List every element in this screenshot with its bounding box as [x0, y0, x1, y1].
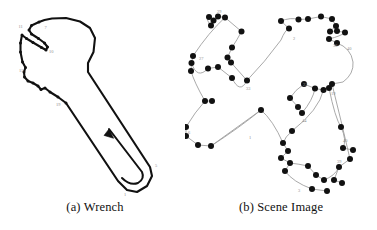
caption-scene: (b) Scene Image: [185, 200, 377, 215]
scene-interest-point: [339, 180, 345, 186]
wrench-vertex: [37, 37, 40, 40]
scene-interest-point: [215, 14, 221, 20]
scene-interest-point: [296, 17, 302, 23]
wrench-vertex: [45, 49, 48, 52]
scene-interest-point: [305, 163, 311, 169]
scene-point-label: 1: [249, 135, 251, 140]
scene-interest-point: [336, 164, 342, 170]
wrench-vertex: [37, 85, 40, 88]
scene-interest-point: [287, 95, 293, 101]
scene-interest-point: [305, 16, 311, 22]
wrench-point-label: 11: [19, 24, 23, 29]
wrench-vertex: [38, 21, 41, 24]
wrench-point-label: 1: [124, 192, 126, 197]
wrench-vertex: [65, 102, 68, 105]
wrench-vertex: [32, 41, 35, 44]
scene-panel: 292733612364022194440393: [185, 0, 377, 200]
wrench-vertex: [21, 61, 24, 64]
wrench-vertex: [24, 66, 27, 69]
scene-interest-point: [208, 143, 214, 149]
scene-interest-point: [205, 66, 211, 72]
scene-interest-point: [342, 30, 348, 36]
scene-interest-point: [190, 53, 196, 59]
wrench-vertex: [57, 96, 60, 99]
scene-interest-point: [312, 86, 318, 92]
scene-interest-point: [318, 14, 324, 20]
scene-interest-point: [189, 60, 195, 66]
scene-interest-point: [286, 26, 292, 32]
scene-interest-point: [313, 172, 319, 178]
caption-wrench: (a) Wrench: [0, 200, 190, 215]
scene-interest-point: [215, 64, 221, 70]
wrench-vertex: [28, 29, 31, 32]
scene-interest-point: [324, 188, 330, 194]
wrench-vertex: [49, 91, 52, 94]
scene-interest-point: [334, 28, 340, 34]
scene-interest-point: [289, 128, 295, 134]
wrench-vertex: [23, 76, 26, 79]
scene-interest-point: [239, 29, 245, 35]
scene-interest-point: [321, 177, 327, 183]
scene-interest-point: [188, 68, 194, 74]
scene-interest-point: [329, 81, 335, 87]
scene-interest-point: [329, 16, 335, 22]
wrench-vertex: [30, 24, 33, 27]
figure-root: 11710151951: [0, 0, 377, 230]
wrench-vertex: [40, 46, 43, 49]
scene-interest-point: [340, 145, 346, 151]
caption-row: (a) Wrench (b) Scene Image: [0, 200, 377, 230]
scene-interest-point: [278, 18, 284, 24]
wrench-vertex: [43, 42, 46, 45]
scene-interest-point: [244, 78, 250, 84]
wrench-vertex: [19, 51, 22, 54]
scene-interest-point: [338, 124, 344, 130]
scene-interest-point: [347, 156, 353, 162]
scene-interest-point: [326, 36, 332, 42]
scene-interest-point: [202, 98, 208, 104]
scene-interest-point: [208, 23, 214, 29]
scene-interest-point: [209, 98, 215, 104]
wrench-contour-figure: 11710151951: [0, 0, 190, 200]
scene-point-label: 22: [303, 82, 307, 87]
wrench-panel: 11710151951: [0, 0, 190, 200]
scene-interest-point: [287, 160, 293, 166]
scene-interest-point: [225, 55, 231, 61]
scene-interest-point: [333, 23, 339, 29]
scene-interest-point: [309, 186, 315, 192]
scene-interest-point: [327, 29, 333, 35]
scene-point-label: 2: [293, 36, 295, 41]
scene-interest-point: [299, 110, 305, 116]
scene-interest-point: [282, 168, 288, 174]
wrench-vertex: [25, 37, 28, 40]
scene-interest-point: [280, 140, 286, 146]
wrench-vertex: [44, 87, 47, 90]
scene-image-figure: 292733612364022194440393: [185, 0, 377, 200]
scene-interest-point: [278, 155, 284, 161]
scene-interest-point: [229, 75, 235, 81]
wrench-vertex: [27, 80, 30, 83]
scene-interest-point: [195, 142, 201, 148]
scene-interest-point: [321, 87, 327, 93]
wrench-vertex: [21, 34, 24, 37]
scene-interest-point: [258, 107, 264, 113]
scene-interest-point: [222, 15, 228, 21]
wrench-vertex: [19, 42, 22, 45]
wrench-vertex: [32, 82, 35, 85]
scene-interest-point: [229, 45, 235, 51]
scene-interest-point: [285, 148, 291, 154]
wrench-vertex: [30, 33, 33, 36]
scene-interest-point: [295, 104, 301, 110]
scene-interest-point: [350, 147, 356, 153]
wrench-vertex: [40, 88, 43, 91]
scene-interest-point: [331, 177, 337, 183]
scene-interest-point: [228, 60, 234, 66]
